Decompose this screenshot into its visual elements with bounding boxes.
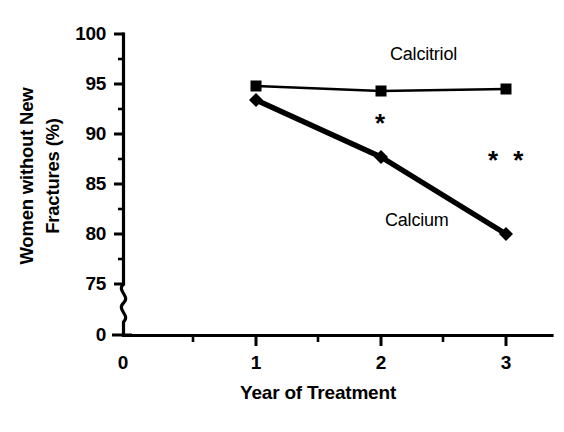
chart-figure: 100 95 90 85 80 75 0 0 1 2 3 Women witho…	[0, 0, 564, 432]
chart-plot-area	[0, 0, 564, 432]
x-tick-label-2: 2	[361, 352, 401, 374]
y-axis-title-line1: Women without New	[14, 43, 40, 309]
significance-marker-year3: * *	[488, 147, 527, 173]
series-label-calcitriol: Calcitriol	[390, 44, 457, 65]
x-axis-title: Year of Treatment	[123, 382, 513, 404]
series-label-calcium: Calcium	[385, 210, 449, 231]
x-tick-label-0: 0	[103, 352, 143, 374]
y-tick-label-0: 0	[46, 324, 106, 346]
marker-calcitriol-year2	[376, 86, 387, 97]
y-axis-title: Women without New Fractures (%)	[14, 43, 66, 309]
significance-marker-year2: *	[375, 110, 385, 136]
y-tick-label-100: 100	[46, 23, 106, 45]
x-tick-label-1: 1	[236, 352, 276, 374]
y-axis-title-line2: Fractures (%)	[40, 43, 66, 309]
marker-calcitriol-year3	[501, 84, 512, 95]
y-axis-break-squiggle	[121, 284, 125, 335]
marker-calcitriol-year1	[251, 81, 262, 92]
x-tick-label-3: 3	[486, 352, 526, 374]
